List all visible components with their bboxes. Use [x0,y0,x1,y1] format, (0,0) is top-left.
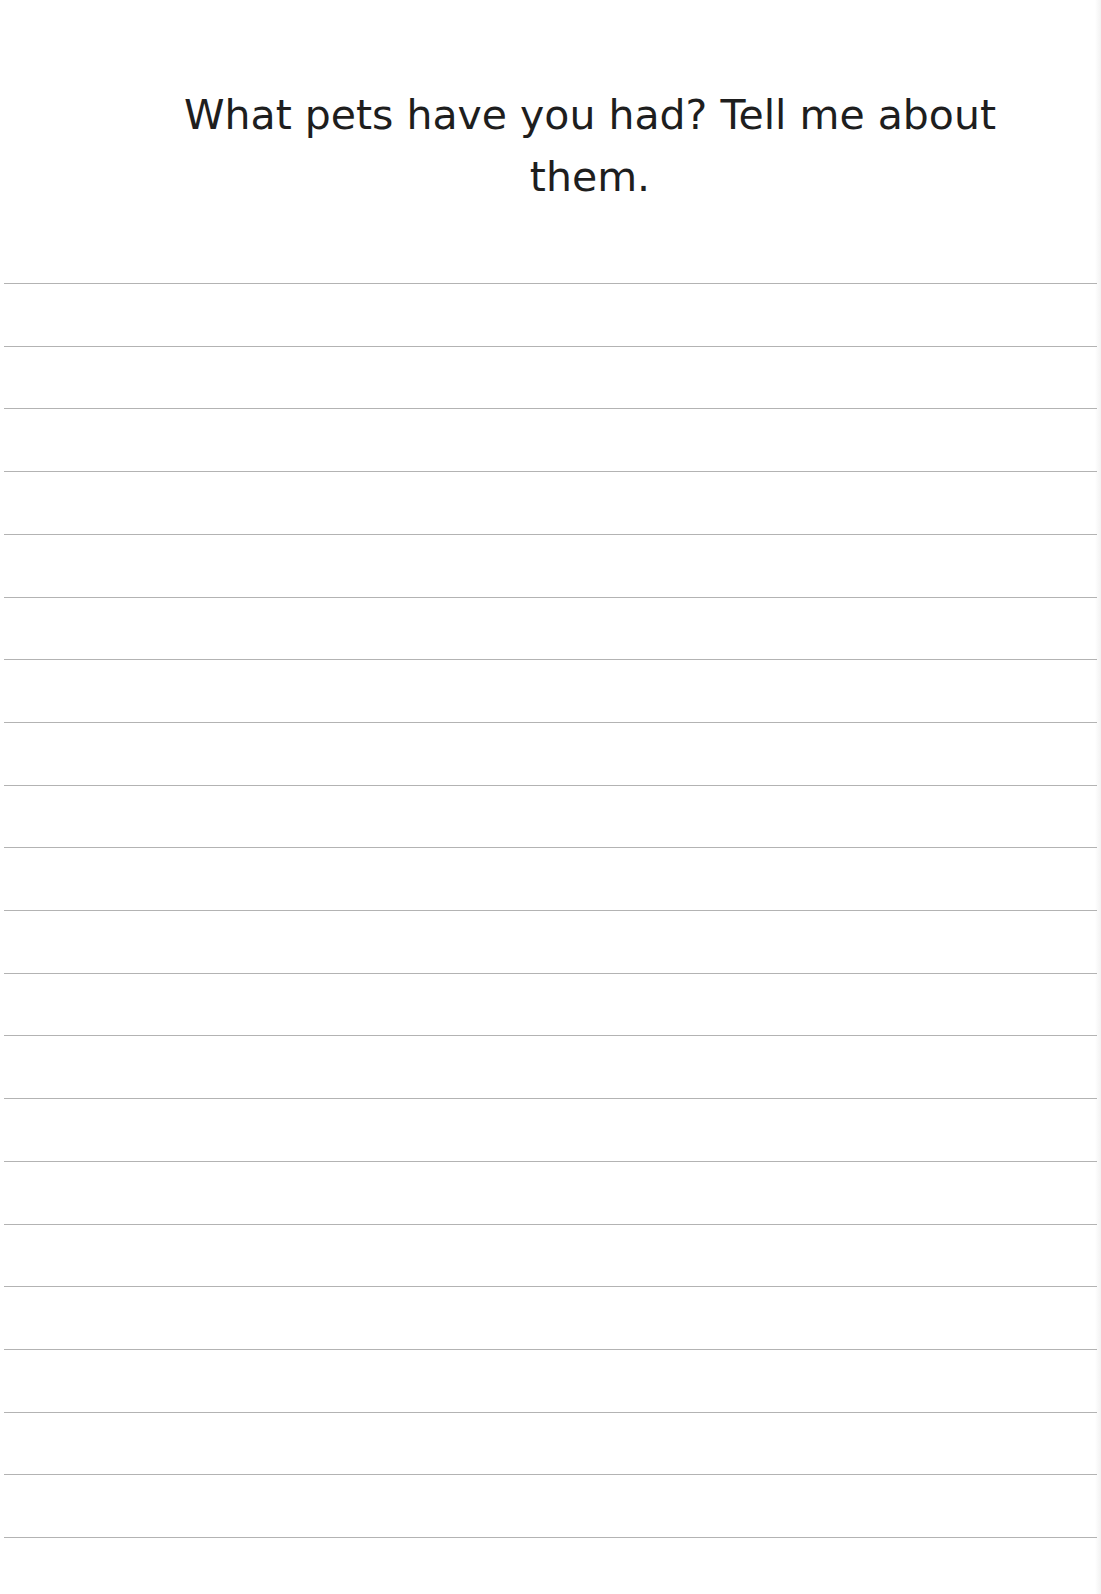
writing-line [4,408,1097,409]
writing-lines[interactable] [4,0,1097,1594]
writing-line [4,722,1097,723]
writing-line [4,346,1097,347]
writing-line [4,1286,1097,1287]
writing-line [4,1161,1097,1162]
writing-line [4,910,1097,911]
writing-line [4,1412,1097,1413]
writing-line [4,847,1097,848]
writing-line [4,597,1097,598]
writing-line [4,1098,1097,1099]
writing-line [4,283,1097,284]
writing-line [4,659,1097,660]
writing-line [4,1474,1097,1475]
writing-line [4,1349,1097,1350]
writing-line [4,785,1097,786]
writing-line [4,1035,1097,1036]
writing-line [4,534,1097,535]
writing-line [4,973,1097,974]
writing-line [4,471,1097,472]
writing-line [4,1224,1097,1225]
writing-line [4,1537,1097,1538]
